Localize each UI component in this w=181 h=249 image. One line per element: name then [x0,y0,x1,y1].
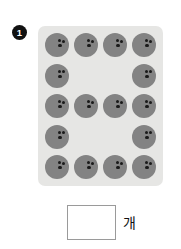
bowling-ball-icon [44,124,70,150]
finger-hole-icon [116,161,119,164]
bowling-ball [132,94,156,118]
finger-hole-icon [145,44,148,47]
bowling-ball [74,94,98,118]
bowling-ball [45,155,69,179]
bowling-ball [45,125,69,149]
bowling-ball-icon [102,32,128,58]
answer-row: 개 [67,205,136,240]
finger-hole-icon [145,39,148,42]
finger-hole-icon [120,40,123,43]
bowling-ball [74,33,98,57]
finger-hole-icon [62,131,65,134]
finger-hole-icon [58,70,61,73]
bowling-ball [74,155,98,179]
bowling-ball [132,125,156,149]
bowling-ball [132,155,156,179]
bowling-ball-icon [131,32,157,58]
finger-hole-icon [62,101,65,104]
finger-hole-icon [145,136,148,139]
bowling-ball [103,155,127,179]
finger-hole-icon [58,131,61,134]
bowling-ball-icon [73,154,99,180]
finger-hole-icon [145,131,148,134]
bowling-ball-icon [73,93,99,119]
finger-hole-icon [116,166,119,169]
problem-number-badge: 1 [12,25,27,40]
finger-hole-icon [149,162,152,165]
finger-hole-icon [145,70,148,73]
finger-hole-icon [145,75,148,78]
finger-hole-icon [116,39,119,42]
finger-hole-icon [58,75,61,78]
finger-hole-icon [62,162,65,165]
finger-hole-icon [87,105,90,108]
finger-hole-icon [58,105,61,108]
answer-unit-label: 개 [123,216,136,230]
bowling-ball-icon [44,93,70,119]
bowling-ball-icon [131,154,157,180]
bowling-ball-icon [44,63,70,89]
finger-hole-icon [145,105,148,108]
bowling-ball-icon [44,154,70,180]
bowling-ball [45,33,69,57]
bowling-ball [45,64,69,88]
finger-hole-icon [58,161,61,164]
bowling-ball [45,94,69,118]
finger-hole-icon [87,44,90,47]
finger-hole-icon [145,166,148,169]
bowling-ball [132,64,156,88]
finger-hole-icon [149,101,152,104]
bowling-ball-icon [131,63,157,89]
ball-cell-empty [102,63,128,89]
finger-hole-icon [58,44,61,47]
finger-hole-icon [145,100,148,103]
bowling-ball-icon [131,124,157,150]
finger-hole-icon [116,100,119,103]
finger-hole-icon [149,131,152,134]
finger-hole-icon [62,70,65,73]
finger-hole-icon [120,101,123,104]
ball-row [44,63,157,89]
answer-input-box[interactable] [67,205,116,240]
finger-hole-icon [87,161,90,164]
finger-hole-icon [58,166,61,169]
bowling-ball-icon [131,93,157,119]
ball-panel [38,26,163,186]
finger-hole-icon [58,136,61,139]
worksheet-page: 1 개 [0,0,181,249]
ball-cell-empty [102,124,128,150]
finger-hole-icon [116,105,119,108]
bowling-ball-icon [73,32,99,58]
ball-row [44,124,157,150]
bowling-ball-icon [102,154,128,180]
finger-hole-icon [87,39,90,42]
finger-hole-icon [91,101,94,104]
ball-cell-empty [73,124,99,150]
finger-hole-icon [62,40,65,43]
ball-row [44,93,157,119]
finger-hole-icon [91,162,94,165]
finger-hole-icon [58,39,61,42]
ball-row [44,32,157,58]
ball-row [44,154,157,180]
finger-hole-icon [145,161,148,164]
finger-hole-icon [58,100,61,103]
finger-hole-icon [149,40,152,43]
bowling-ball [103,33,127,57]
finger-hole-icon [120,162,123,165]
ball-cell-empty [73,63,99,89]
bowling-ball-icon [102,93,128,119]
finger-hole-icon [91,40,94,43]
finger-hole-icon [149,70,152,73]
bowling-ball-icon [44,32,70,58]
finger-hole-icon [87,100,90,103]
ball-grid [44,32,157,180]
finger-hole-icon [87,166,90,169]
bowling-ball [103,94,127,118]
finger-hole-icon [116,44,119,47]
bowling-ball [132,33,156,57]
